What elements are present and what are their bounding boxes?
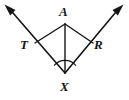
- segment-a-t-line: [35, 24, 65, 43]
- geometry-figure: A T R X: [0, 0, 129, 100]
- segment-a-r-line: [65, 24, 93, 43]
- vertex-label-r: R: [94, 38, 103, 51]
- vertex-label-x: X: [60, 80, 69, 93]
- vertex-label-t: T: [20, 38, 28, 51]
- vertex-label-a: A: [59, 5, 68, 18]
